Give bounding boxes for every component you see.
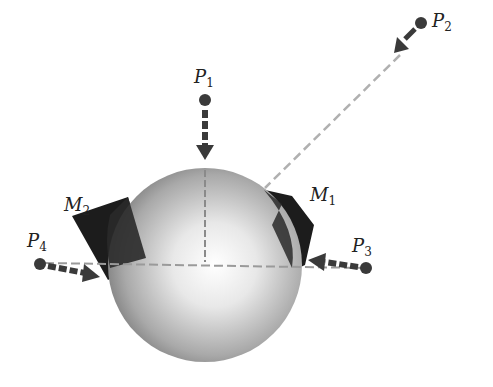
line-p2 — [265, 55, 400, 188]
label-m1: M1 — [310, 186, 336, 207]
label-p2: P2 — [432, 12, 452, 33]
sphere-force-diagram: P1 P2 P3 P4 M1 M2 — [0, 0, 493, 387]
arrow-p3-shaft — [325, 262, 358, 267]
label-p1: P1 — [194, 68, 214, 89]
label-p3: P3 — [352, 237, 372, 258]
label-m2: M2 — [64, 196, 90, 217]
point-p4 — [34, 258, 46, 270]
point-p3 — [360, 262, 372, 274]
label-p4: P4 — [27, 232, 47, 253]
arrow-p2-shaft — [405, 29, 415, 39]
point-p2 — [415, 17, 427, 29]
arrow-p4-shaft — [48, 266, 85, 273]
arrow-p4-head — [82, 264, 100, 282]
point-p1 — [199, 94, 211, 106]
arrow-p1-head — [196, 145, 214, 160]
arrow-p3-head — [308, 253, 326, 271]
